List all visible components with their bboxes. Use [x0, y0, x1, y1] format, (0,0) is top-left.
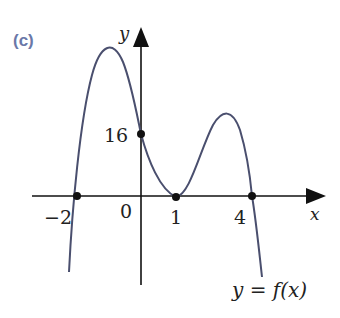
root-point-1: [172, 193, 180, 201]
y-intercept-point: [137, 130, 145, 138]
root-point-4: [248, 192, 256, 200]
x-tick-1: 1: [170, 206, 182, 228]
x-axis-arrow-icon: [306, 188, 326, 204]
y-tick-16: 16: [104, 124, 128, 146]
x-tick-4: 4: [234, 206, 246, 228]
function-curve: [69, 48, 262, 277]
y-axis-arrow-icon: [133, 27, 149, 47]
graph: y x 16 0 −2 1 4 y = f(x): [0, 0, 340, 318]
origin-label: 0: [120, 200, 132, 222]
x-tick-neg2: −2: [44, 206, 72, 228]
curve-label: y = f(x): [231, 278, 307, 302]
x-axis-label: x: [310, 204, 320, 224]
root-point-neg2: [73, 192, 81, 200]
y-axis-label: y: [118, 23, 130, 44]
